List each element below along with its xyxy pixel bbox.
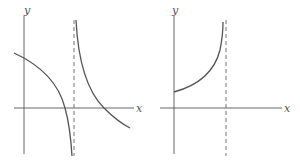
right-branch-curve: [76, 20, 130, 128]
right-graph: y x: [160, 4, 291, 156]
right-y-label: y: [171, 4, 179, 17]
right-x-label: x: [284, 102, 291, 115]
left-branch-curve: [14, 53, 72, 156]
diagram: y x y x: [0, 0, 300, 160]
rising-curve: [174, 22, 223, 92]
left-x-label: x: [136, 102, 143, 115]
left-y-label: y: [23, 4, 31, 17]
left-graph: y x: [14, 4, 143, 156]
